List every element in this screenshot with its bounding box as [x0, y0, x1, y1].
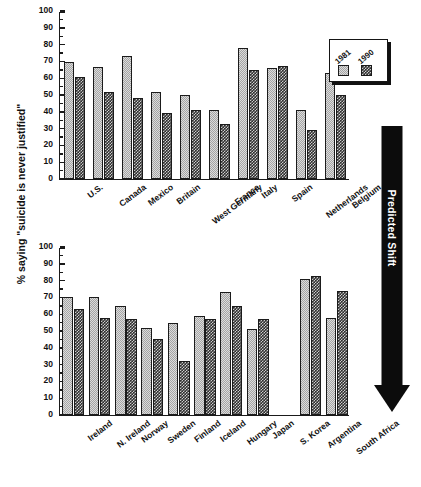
bar-group [176, 12, 205, 179]
bar-belgium-1981 [325, 73, 336, 179]
bar-france-1990 [220, 124, 231, 179]
bar-france-1981 [209, 110, 220, 179]
bar-group [139, 248, 165, 415]
y-tick-label: 20 [31, 139, 53, 150]
bar-netherlands-1981 [296, 110, 307, 179]
bar-ireland-1981 [62, 297, 73, 415]
y-tick-label: 90 [31, 258, 53, 269]
x-label-spain: Spain [289, 182, 314, 204]
bar-group [118, 12, 147, 179]
bar-italy-1981 [238, 48, 249, 179]
y-tick-label: 80 [31, 275, 53, 286]
bar-group [60, 12, 89, 179]
bar-mexico-1990 [133, 98, 144, 179]
y-axis-label: % saying "suicide is never justified" [15, 69, 27, 319]
predicted-shift-arrow: Predicted Shift [372, 126, 412, 416]
bar-group-container-top [60, 12, 349, 179]
bar-west-germany-1981 [180, 95, 191, 179]
plot-area-bottom: 0102030405060708090100 IrelandN. Ireland… [59, 248, 349, 416]
bar-group [218, 248, 244, 415]
y-tick-label: 10 [31, 392, 53, 403]
bar-group [205, 12, 234, 179]
bar-sweden-1990 [153, 339, 164, 415]
x-label-finland: Finland [192, 418, 222, 444]
y-tick-label: 100 [31, 5, 53, 16]
y-tick-label: 60 [31, 308, 53, 319]
bar-group [263, 12, 292, 179]
bar-finland-1990 [179, 361, 190, 415]
bar-u-s--1990 [75, 77, 86, 179]
bar-spain-1990 [278, 66, 289, 179]
legend-swatch-1981 [338, 65, 349, 76]
bar-hungary-1981 [220, 292, 231, 415]
plot-area-top: 0102030405060708090100 U.S.CanadaMexicoB… [59, 12, 349, 180]
x-label-canada: Canada [117, 182, 148, 209]
legend: 1981 1990 [329, 39, 388, 82]
bar-belgium-1990 [336, 95, 347, 179]
bar-britain-1990 [162, 113, 173, 179]
bar-japan-1981 [247, 329, 258, 415]
x-label-u-s-: U.S. [85, 182, 104, 200]
y-tick-label: 70 [31, 55, 53, 66]
legend-swatch-1990 [361, 65, 372, 76]
y-tick-label: 0 [31, 409, 53, 420]
bar-japan-1990 [258, 319, 269, 415]
chart-panel-top: 0102030405060708090100 U.S.CanadaMexicoB… [59, 12, 349, 180]
bar-spain-1981 [267, 68, 278, 179]
y-tick-label: 70 [31, 291, 53, 302]
bar-ireland-1990 [74, 309, 85, 415]
bar-canada-1981 [93, 67, 104, 179]
bar-group [245, 248, 271, 415]
y-tick-label: 100 [31, 241, 53, 252]
legend-label-1981: 1981 [333, 48, 352, 66]
bar-iceland-1981 [194, 316, 205, 415]
bar-italy-1990 [249, 70, 260, 179]
y-tick-label: 30 [31, 359, 53, 370]
bar-group [113, 248, 139, 415]
bar-n-ireland-1990 [100, 318, 111, 415]
bar-group [297, 248, 323, 415]
y-tick-label: 60 [31, 72, 53, 83]
bar-argentina-1981 [300, 279, 311, 415]
bar-group [234, 12, 263, 179]
bar-iceland-1990 [205, 319, 216, 415]
bar-group [321, 12, 350, 179]
bar-sweden-1981 [141, 328, 152, 415]
x-label-sweden: Sweden [166, 418, 198, 446]
bar-group [86, 248, 112, 415]
y-tick-label: 30 [31, 123, 53, 134]
bar-hungary-1990 [232, 306, 243, 415]
y-tick-label: 0 [31, 173, 53, 184]
x-label-italy: Italy [259, 182, 279, 200]
bar-mexico-1981 [122, 56, 133, 179]
x-label-iceland: Iceland [218, 418, 248, 444]
x-label-ireland: Ireland [86, 418, 115, 443]
bar-west-germany-1990 [191, 110, 202, 179]
bar-norway-1990 [126, 319, 137, 415]
bar-group [192, 248, 218, 415]
bar-group [60, 248, 86, 415]
bar-group [89, 12, 118, 179]
bar-britain-1981 [151, 92, 162, 179]
x-label-mexico: Mexico [145, 182, 174, 208]
arrow-head-icon [374, 385, 410, 412]
bar-group [271, 248, 297, 415]
bar-group [324, 248, 350, 415]
bar-netherlands-1990 [307, 130, 318, 179]
bar-finland-1981 [168, 323, 179, 415]
y-tick-label: 40 [31, 106, 53, 117]
bar-group [147, 12, 176, 179]
legend-label-1990: 1990 [356, 48, 375, 66]
y-tick-label: 50 [31, 89, 53, 100]
bar-norway-1981 [115, 306, 126, 415]
bar-canada-1990 [104, 92, 115, 179]
y-tick-label: 10 [31, 156, 53, 167]
y-tick-label: 40 [31, 342, 53, 353]
bar-group-container-bottom [60, 248, 349, 415]
y-tick-label: 80 [31, 39, 53, 50]
x-label-britain: Britain [174, 182, 202, 206]
y-tick-label: 90 [31, 22, 53, 33]
chart-panel-bottom: 0102030405060708090100 IrelandN. Ireland… [59, 248, 349, 416]
bar-u-s--1981 [64, 62, 75, 179]
bar-group [292, 12, 321, 179]
